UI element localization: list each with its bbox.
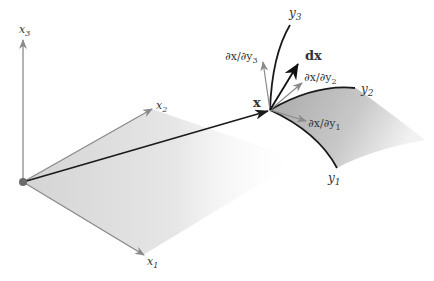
tangent-y2-label: ∂x/∂y2 <box>304 71 337 86</box>
curvilinear-surface <box>270 87 425 168</box>
tangent-y3-label: ∂x/∂y3 <box>225 50 258 65</box>
origin-dot <box>19 178 27 186</box>
x1-x2-plane <box>23 109 300 255</box>
y3-label: y3 <box>288 6 302 22</box>
tangent-vector-y3 <box>263 62 270 110</box>
x3-axis-label: x3 <box>19 23 30 38</box>
y2-label: y2 <box>360 82 374 98</box>
y3-curve <box>270 25 290 110</box>
x1-axis-label: x1 <box>147 255 158 270</box>
point-x-label: x <box>253 95 261 110</box>
differential-label: dx <box>305 48 322 63</box>
y1-label: y1 <box>327 171 341 187</box>
curvilinear-coordinates-diagram: x3 x2 x1 x y3 y2 y1 ∂x/∂y3 ∂x/∂y2 ∂x/∂y1… <box>0 0 434 281</box>
x2-axis-label: x2 <box>156 99 167 114</box>
